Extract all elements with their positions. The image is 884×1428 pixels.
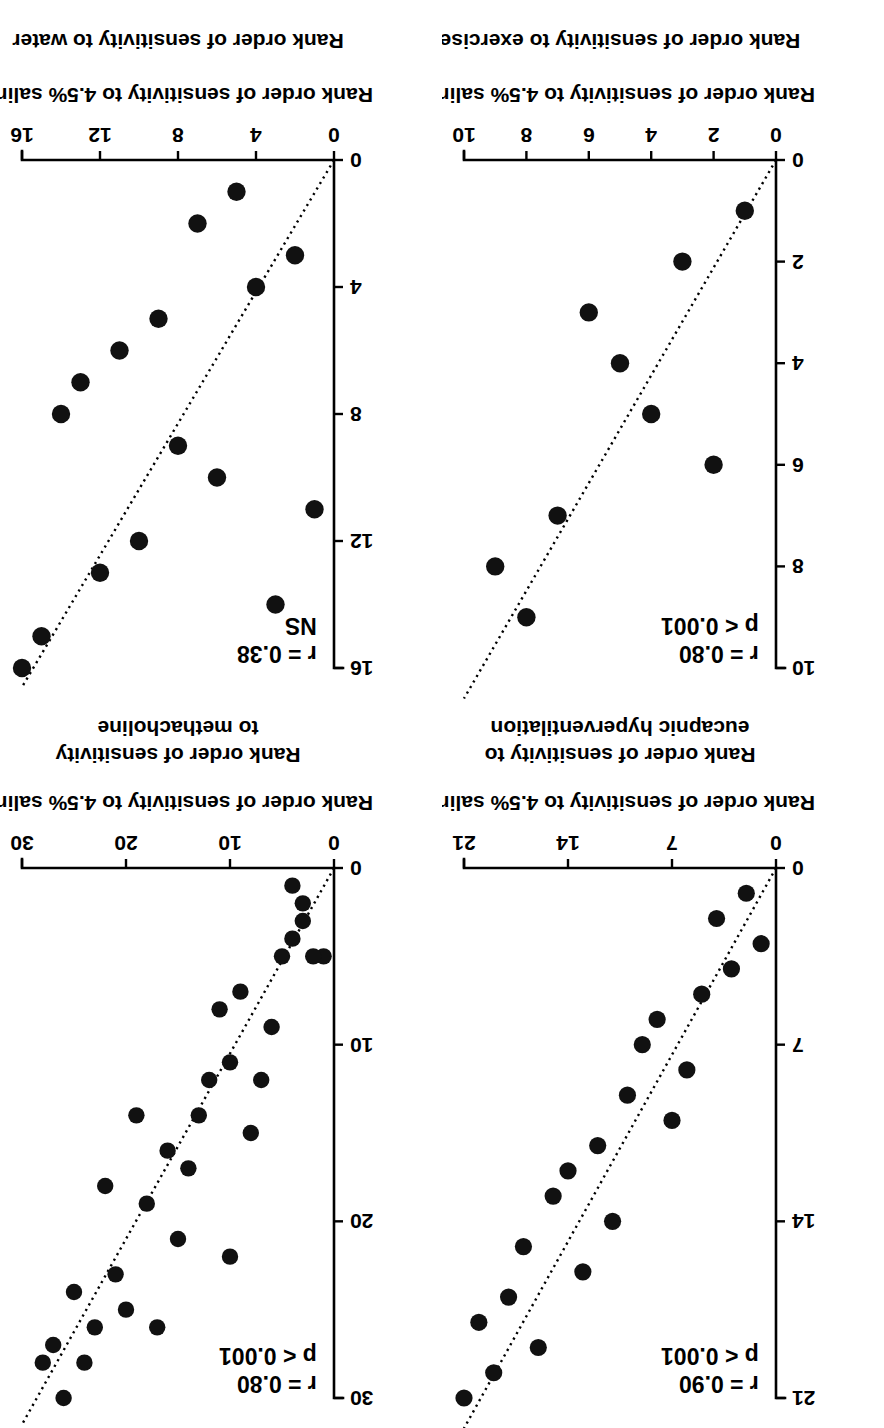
data-point	[188, 214, 206, 232]
y-axis-tick-label: 0	[792, 149, 804, 172]
y-axis-tick-label: 4	[350, 276, 362, 299]
y-axis-title-line: Rank order of sensitivity to water	[12, 30, 343, 53]
data-point	[266, 595, 284, 613]
data-point	[642, 405, 660, 423]
data-point	[71, 373, 89, 391]
y-axis-tick-label: 0	[350, 857, 362, 880]
correlation-r-label: r = 0.38	[237, 641, 317, 667]
x-axis-title: Rank order of sensitivity to 4.5% saline	[442, 792, 815, 815]
data-point	[263, 1019, 279, 1035]
data-point	[211, 1001, 227, 1017]
data-point	[118, 1301, 134, 1317]
x-axis-tick-label: 8	[172, 124, 184, 147]
data-point	[738, 885, 755, 902]
data-point	[149, 310, 167, 328]
data-point	[649, 1011, 666, 1028]
x-axis-tick-label: 12	[88, 124, 111, 147]
data-point	[222, 1054, 238, 1070]
y-axis-tick-label: 12	[350, 530, 373, 553]
x-axis-tick-label: 0	[328, 832, 340, 855]
y-axis-tick-label: 2	[792, 251, 804, 274]
y-axis-tick-label: 14	[792, 1210, 816, 1233]
y-axis-title-line: Rank order of sensitivity to exercise	[442, 30, 800, 53]
x-axis-tick-label: 4	[250, 124, 262, 147]
data-point	[208, 468, 226, 486]
axis-spines	[464, 859, 785, 1398]
data-point	[545, 1187, 562, 1204]
data-point	[548, 506, 566, 524]
x-axis-tick-label: 8	[520, 124, 532, 147]
data-point	[52, 405, 70, 423]
data-point	[284, 930, 300, 946]
data-point	[704, 456, 722, 474]
y-axis-tick-label: 7	[792, 1034, 804, 1057]
data-point	[470, 1314, 487, 1331]
data-point	[169, 437, 187, 455]
x-axis-tick-label: 2	[708, 124, 720, 147]
data-point	[107, 1266, 123, 1282]
panel-methacholine: 01020300102030r = 0.80p < 0.001Rank orde…	[0, 700, 442, 1428]
y-axis-title-line: Rank order of sensitivity to	[485, 744, 756, 767]
data-point	[284, 877, 300, 893]
data-point	[243, 1125, 259, 1141]
data-point	[32, 627, 50, 645]
y-axis-tick-label: 10	[792, 657, 815, 680]
data-point	[35, 1354, 51, 1370]
scatter-plot-exercise: 02468100246810r = 0.80p < 0.001Rank orde…	[442, 0, 884, 700]
data-point	[159, 1142, 175, 1158]
data-point	[517, 608, 535, 626]
x-axis-title: Rank order of sensitivity to 4.5% saline	[0, 84, 373, 107]
x-axis-tick-label: 14	[556, 832, 580, 855]
x-axis-tick-label: 10	[452, 124, 475, 147]
y-axis-tick-label: 30	[350, 1387, 373, 1410]
data-point	[559, 1162, 576, 1179]
data-point	[500, 1288, 517, 1305]
data-point	[634, 1036, 651, 1053]
data-point	[723, 960, 740, 977]
data-point	[191, 1107, 207, 1123]
correlation-r-label: r = 0.80	[237, 1371, 317, 1397]
figure-sheet: 071421071421r = 0.90p < 0.001Rank order …	[0, 0, 884, 1428]
data-point	[76, 1354, 92, 1370]
data-point	[13, 659, 31, 677]
data-point	[247, 278, 265, 296]
x-axis-tick-label: 20	[114, 832, 137, 855]
data-point	[66, 1284, 82, 1300]
data-point	[305, 948, 321, 964]
data-point	[678, 1061, 695, 1078]
data-point	[530, 1339, 547, 1356]
regression-fit-line	[22, 160, 334, 687]
significance-p-label: NS	[285, 613, 317, 639]
data-point	[580, 303, 598, 321]
data-point	[693, 986, 710, 1003]
data-point	[673, 252, 691, 270]
x-axis-tick-label: 0	[328, 124, 340, 147]
x-axis-tick-label: 21	[452, 832, 476, 855]
y-axis-title-line: to methacholine	[97, 717, 258, 740]
y-axis-title-line: eucapnic hyperventilation	[490, 717, 749, 740]
panel-exercise: 02468100246810r = 0.80p < 0.001Rank orde…	[442, 0, 884, 700]
data-point	[55, 1390, 71, 1406]
data-point	[274, 948, 290, 964]
data-point	[295, 913, 311, 929]
data-point	[170, 1231, 186, 1247]
data-point	[149, 1319, 165, 1335]
scatter-plot-eucapnic-hyperventilation: 071421071421r = 0.90p < 0.001Rank order …	[442, 700, 884, 1428]
scatter-plot-water: 04812160481216r = 0.38NSRank order of se…	[0, 0, 442, 700]
correlation-r-label: r = 0.90	[679, 1371, 759, 1397]
data-point	[305, 500, 323, 518]
y-axis-tick-label: 6	[792, 454, 804, 477]
correlation-r-label: r = 0.80	[679, 641, 759, 667]
y-axis-tick-label: 16	[350, 657, 373, 680]
data-point	[589, 1137, 606, 1154]
y-axis-tick-label: 20	[350, 1210, 373, 1233]
y-axis-tick-label: 4	[792, 352, 804, 375]
data-point	[130, 532, 148, 550]
data-point	[515, 1238, 532, 1255]
data-point	[574, 1263, 591, 1280]
significance-p-label: p < 0.001	[661, 1343, 759, 1369]
data-point	[604, 1213, 621, 1230]
data-point	[227, 183, 245, 201]
data-point	[97, 1178, 113, 1194]
data-point	[286, 246, 304, 264]
